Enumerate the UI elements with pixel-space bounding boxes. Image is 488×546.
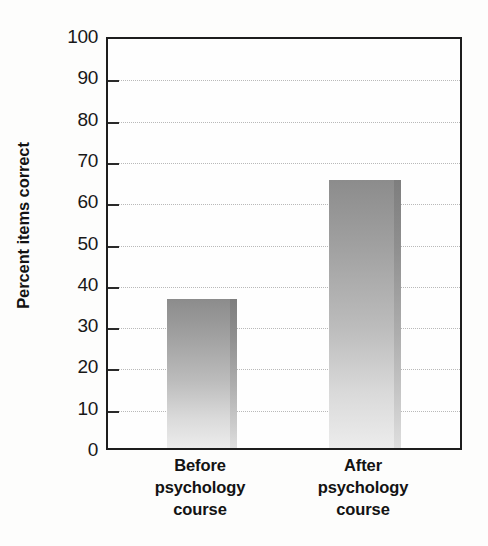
y-tickmark-50: [108, 246, 119, 248]
y-tick-label-90: 90: [77, 67, 98, 89]
y-tick-label-100: 100: [67, 26, 98, 48]
category-label-0-line-1: psychology: [120, 477, 280, 499]
y-tickmark-70: [108, 163, 119, 165]
category-label-1-line-0: After: [283, 455, 443, 477]
y-tick-label-10: 10: [77, 398, 98, 420]
y-tick-label-30: 30: [77, 315, 98, 337]
gridline-60: [108, 204, 460, 205]
x-axis-category-labels: BeforepsychologycourseAfterpsychologycou…: [106, 455, 462, 545]
y-tickmark-40: [108, 287, 119, 289]
y-tick-label-50: 50: [77, 233, 98, 255]
y-tickmark-60: [108, 204, 119, 206]
gridline-40: [108, 287, 460, 288]
y-tick-label-20: 20: [77, 356, 98, 378]
y-axis-tick-labels: 0102030405060708090100: [46, 0, 104, 546]
bar-0: [167, 299, 237, 448]
y-tickmark-10: [108, 411, 119, 413]
gridline-10: [108, 411, 460, 412]
plot-area: [106, 37, 462, 450]
gridline-90: [108, 80, 460, 81]
y-axis-title-label: Percent items correct: [14, 142, 33, 309]
y-tick-label-70: 70: [77, 150, 98, 172]
y-tickmark-80: [108, 122, 119, 124]
category-label-1: Afterpsychologycourse: [283, 455, 443, 520]
y-tick-label-80: 80: [77, 109, 98, 131]
gridline-50: [108, 246, 460, 247]
category-label-0-line-0: Before: [120, 455, 280, 477]
y-tickmark-20: [108, 369, 119, 371]
y-tick-label-60: 60: [77, 191, 98, 213]
category-label-0-line-2: course: [120, 499, 280, 521]
category-label-0: Beforepsychologycourse: [120, 455, 280, 520]
y-axis-title: Percent items correct: [0, 0, 46, 450]
gridline-30: [108, 328, 460, 329]
category-label-1-line-2: course: [283, 499, 443, 521]
bar-1: [329, 180, 401, 448]
y-tickmark-30: [108, 328, 119, 330]
y-tickmark-90: [108, 80, 119, 82]
bar-0-shadow-edge: [230, 299, 237, 448]
y-tick-label-40: 40: [77, 274, 98, 296]
category-label-1-line-1: psychology: [283, 477, 443, 499]
gridline-80: [108, 122, 460, 123]
y-tick-label-0: 0: [88, 439, 98, 461]
bar-chart-figure: Percent items correct 010203040506070809…: [0, 0, 488, 546]
bar-1-shadow-edge: [394, 180, 401, 448]
gridline-20: [108, 369, 460, 370]
gridline-70: [108, 163, 460, 164]
